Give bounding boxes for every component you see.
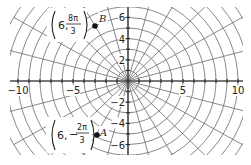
point-a-radius: 6, bbox=[57, 129, 68, 142]
polar-coordinate-chart: −10−5510642−2−4−6 6, 8π 3 B 6, − 2π 3 A bbox=[0, 0, 251, 165]
point-b-name: B bbox=[98, 13, 106, 24]
y-tick-label: −6 bbox=[110, 140, 125, 151]
x-tick-label: 5 bbox=[180, 85, 186, 96]
y-tick-label: −4 bbox=[110, 118, 125, 129]
point-b-theta-numerator: 8π bbox=[68, 14, 78, 23]
point-b-marker bbox=[92, 23, 98, 29]
y-tick-label: 2 bbox=[119, 55, 125, 66]
point-a-marker bbox=[94, 132, 100, 138]
point-a-name: A bbox=[99, 127, 107, 138]
grid-ray bbox=[128, 48, 251, 81]
y-tick-label: 6 bbox=[119, 12, 125, 23]
point-a-theta-denominator: 3 bbox=[79, 136, 84, 145]
y-tick-label: −2 bbox=[110, 97, 125, 108]
grid-ray bbox=[128, 17, 242, 81]
x-tick-label: 10 bbox=[232, 85, 245, 96]
point-b-label: 6, 8π 3 bbox=[47, 8, 87, 42]
x-tick-label: −5 bbox=[66, 85, 81, 96]
point-b-theta-denominator: 3 bbox=[70, 27, 75, 36]
point-a-theta-numerator: 2π bbox=[77, 123, 87, 132]
polar-grid bbox=[0, 0, 251, 165]
point-a-label: 6, − 2π 3 bbox=[46, 117, 94, 153]
x-tick-label: −10 bbox=[7, 85, 28, 96]
grid-ray bbox=[128, 0, 194, 81]
y-tick-label: 4 bbox=[119, 34, 125, 45]
point-b-radius: 6, bbox=[58, 19, 69, 32]
